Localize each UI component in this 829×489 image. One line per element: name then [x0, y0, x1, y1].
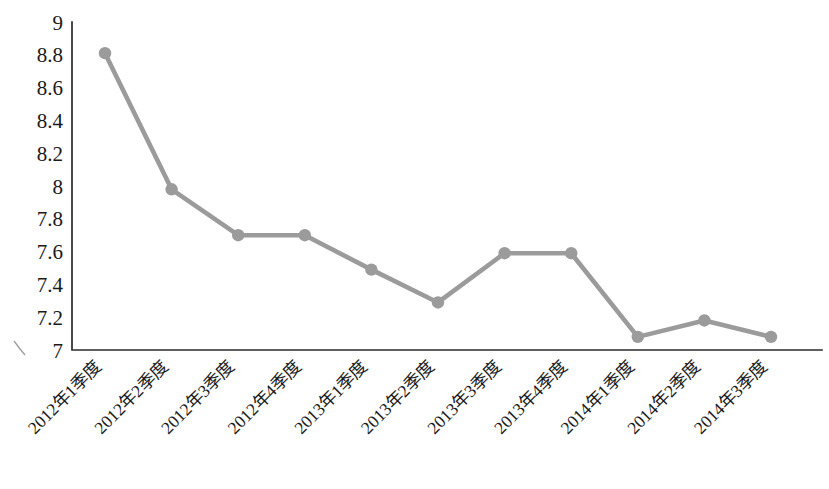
y-axis-tick-label: 7 — [53, 339, 64, 363]
data-point — [99, 47, 111, 59]
data-point — [232, 229, 244, 241]
data-point — [698, 314, 710, 326]
y-axis-tick-label: 8 — [53, 175, 64, 199]
data-point — [365, 263, 377, 275]
y-axis-tick-label: 7.6 — [37, 240, 63, 264]
data-point — [765, 331, 777, 343]
y-axis-tick-label: 8.8 — [37, 43, 63, 67]
y-axis-tick-label: 8.2 — [37, 142, 63, 166]
data-point — [565, 247, 577, 259]
data-point — [632, 331, 644, 343]
data-point — [299, 229, 311, 241]
chart-canvas: 98.88.68.48.287.87.67.47.27 2012年1季度2012… — [0, 0, 829, 489]
data-point — [498, 247, 510, 259]
y-axis-tick-label: 9 — [53, 11, 64, 35]
y-axis-tick-label: 7.4 — [37, 273, 64, 297]
y-axis-tick-label: 7.8 — [37, 207, 63, 231]
data-point — [432, 296, 444, 308]
y-axis-tick-label: 8.4 — [37, 109, 64, 133]
line-chart: 98.88.68.48.287.87.67.47.27 2012年1季度2012… — [0, 0, 829, 489]
y-axis-tick-label: 8.6 — [37, 76, 63, 100]
y-axis-tick-label: 7.2 — [37, 306, 63, 330]
data-point — [165, 183, 177, 195]
